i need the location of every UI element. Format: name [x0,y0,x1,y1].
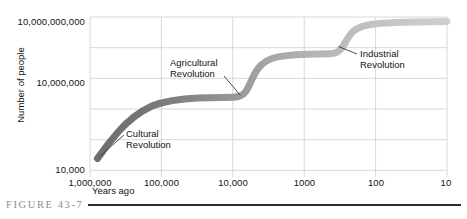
figure-caption-rule [88,204,461,206]
annotation-cultural-revolution-line2: Revolution [126,140,171,151]
x-tick-label-10000: 10,000 [203,178,263,188]
annotation-cultural-revolution-line1: Cultural [126,128,159,139]
annotation-agricultural-revolution: Agricultural Revolution [170,58,218,79]
annotation-industrial-revolution: Industrial Revolution [360,49,405,70]
plot-area-background [90,17,447,177]
annotation-agricultural-revolution-line2: Revolution [170,69,218,80]
figure-caption: FIGURE 43-7 [6,199,461,210]
annotation-industrial-revolution-line2: Revolution [360,60,405,71]
x-axis-title: Years ago [92,186,134,196]
x-tick-label-100: 100 [350,178,402,188]
y-tick-label-10000: 10,000 [0,165,85,175]
x-tick-label-100000: 100,000 [130,178,193,188]
y-axis-title: Number of people [16,30,26,140]
annotation-cultural-revolution: Cultural Revolution [126,129,171,150]
x-tick-label-10: 10 [423,178,467,188]
y-tick-label-10000000000: 10,000,000,000 [0,17,85,27]
x-tick-label-1000: 1000 [277,178,332,188]
figure-caption-label: FIGURE 43-7 [6,199,88,210]
figure-container: 10,000,000,000 10,000,000 10,000 Number … [0,0,467,219]
annotation-agricultural-revolution-line1: Agricultural [170,57,218,68]
y-tick-label-10000000: 10,000,000 [0,78,85,88]
annotation-industrial-revolution-line1: Industrial [360,48,399,59]
